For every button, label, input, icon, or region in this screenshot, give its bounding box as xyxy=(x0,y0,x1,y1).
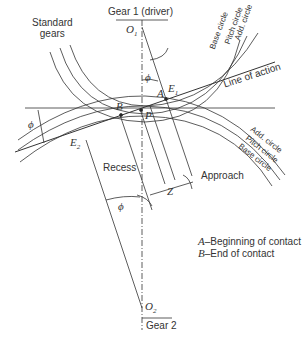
gear-contact-diagram: Standard gears Gear 1 (driver) O1 ϕ A E1… xyxy=(0,0,307,337)
point-b xyxy=(120,114,123,117)
point-p xyxy=(140,109,143,112)
gear1-pitch-circle xyxy=(60,36,247,114)
gear1-label: Gear 1 (driver) xyxy=(108,6,173,17)
point-b-label: B xyxy=(116,101,123,112)
o2-label: O2 xyxy=(145,301,156,317)
legend-a: A–Beginning of contact xyxy=(198,236,301,247)
o1-label: O1 xyxy=(126,24,137,40)
phi-left-label: ϕ xyxy=(28,119,34,130)
e2-label: E2 xyxy=(70,137,80,153)
point-p-label: P xyxy=(145,110,152,121)
phi-top-label: ϕ xyxy=(145,72,151,83)
e1-label: E1 xyxy=(168,83,178,99)
approach-label: Approach xyxy=(201,170,244,181)
phi-bottom-label: ϕ xyxy=(118,201,124,212)
point-a-label: A xyxy=(157,88,164,99)
legend-b: B–End of contact xyxy=(198,248,274,259)
z-label: Z xyxy=(167,186,173,197)
gear2-label: Gear 2 xyxy=(146,320,177,331)
recess-label: Recess xyxy=(103,162,136,173)
standard-gears-label: Standard gears xyxy=(32,17,73,39)
